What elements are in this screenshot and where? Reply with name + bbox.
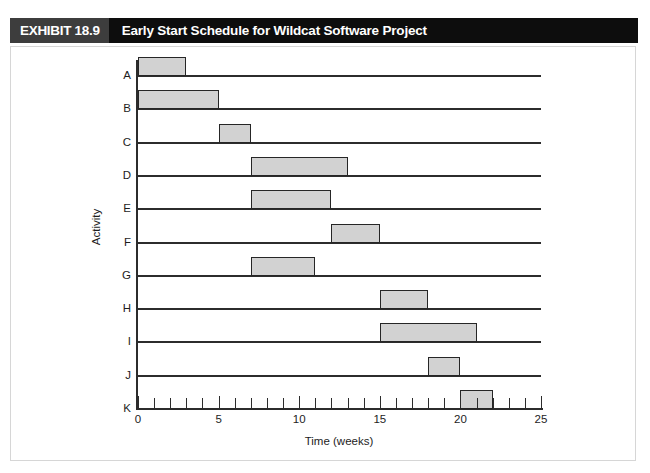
- x-tick-6: [235, 398, 236, 408]
- x-tick-17: [412, 398, 413, 408]
- y-tick-label-k: K: [123, 402, 131, 414]
- x-tick-4: [202, 398, 203, 408]
- x-tick-19: [444, 398, 445, 408]
- y-tick-label-i: I: [128, 335, 131, 347]
- x-tick-22: [493, 398, 494, 408]
- gantt-bar-i[interactable]: [380, 323, 477, 342]
- x-tick-0: [138, 396, 139, 408]
- x-tick-12: [331, 398, 332, 408]
- gridline-row-g: [138, 275, 541, 277]
- x-tick-20: [460, 396, 461, 408]
- x-tick-21: [477, 398, 478, 408]
- gantt-bar-h[interactable]: [380, 290, 428, 309]
- x-tick-3: [186, 398, 187, 408]
- x-tick-13: [348, 398, 349, 408]
- x-tick-15: [380, 396, 381, 408]
- exhibit-number-label: EXHIBIT 18.9: [10, 18, 109, 43]
- y-tick-label-e: E: [123, 202, 131, 214]
- x-tick-10: [299, 396, 300, 408]
- exhibit-banner: EXHIBIT 18.9 Early Start Schedule for Wi…: [10, 18, 638, 43]
- gantt-bar-b[interactable]: [138, 90, 219, 109]
- exhibit-title: Early Start Schedule for Wildcat Softwar…: [109, 18, 427, 43]
- y-tick-label-a: A: [123, 69, 131, 81]
- x-tick-18: [428, 398, 429, 408]
- gridline-row-h: [138, 308, 541, 310]
- x-tick-14: [364, 398, 365, 408]
- x-tick-9: [283, 398, 284, 408]
- gantt-bar-a[interactable]: [138, 57, 186, 76]
- y-tick-label-g: G: [122, 269, 131, 281]
- x-tick-label-25: 25: [535, 413, 548, 425]
- x-tick-7: [251, 398, 252, 408]
- x-tick-24: [525, 398, 526, 408]
- x-tick-label-5: 5: [215, 413, 221, 425]
- x-tick-label-0: 0: [135, 413, 141, 425]
- x-tick-1: [154, 398, 155, 408]
- gridline-row-a: [138, 75, 541, 77]
- gantt-bar-j[interactable]: [428, 357, 460, 376]
- x-tick-11: [315, 398, 316, 408]
- x-tick-label-10: 10: [293, 413, 306, 425]
- gantt-bar-f[interactable]: [331, 224, 379, 243]
- gantt-bar-g[interactable]: [251, 257, 315, 276]
- gridline-row-i: [138, 341, 541, 343]
- x-tick-2: [170, 398, 171, 408]
- y-tick-label-h: H: [123, 302, 131, 314]
- gantt-bar-c[interactable]: [219, 124, 251, 143]
- x-axis-title: Time (weeks): [305, 435, 374, 447]
- x-tick-8: [267, 398, 268, 408]
- x-tick-16: [396, 398, 397, 408]
- y-axis-title: Activity: [90, 209, 102, 245]
- x-tick-5: [219, 396, 220, 408]
- gantt-bar-d[interactable]: [251, 157, 348, 176]
- x-tick-23: [509, 398, 510, 408]
- gridline-row-j: [138, 375, 541, 377]
- gridline-row-e: [138, 208, 541, 210]
- gantt-bar-e[interactable]: [251, 190, 332, 209]
- plot-area: [138, 60, 541, 408]
- y-tick-label-f: F: [124, 236, 131, 248]
- y-tick-label-b: B: [123, 102, 131, 114]
- x-tick-25: [541, 396, 542, 408]
- x-tick-label-20: 20: [454, 413, 467, 425]
- y-tick-label-c: C: [123, 136, 131, 148]
- x-tick-label-15: 15: [373, 413, 386, 425]
- gantt-chart: 0510152025 ABCDEFGHIJK Activity Time (we…: [0, 46, 650, 466]
- y-tick-label-j: J: [125, 369, 131, 381]
- gridline-row-c: [138, 142, 541, 144]
- y-tick-label-d: D: [123, 169, 131, 181]
